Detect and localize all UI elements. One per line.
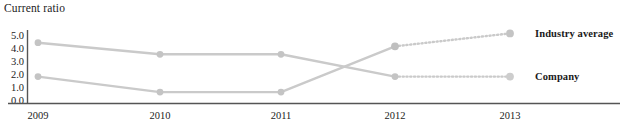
data-point-marker (278, 51, 285, 58)
x-tick-label-2009: 2009 (28, 110, 49, 121)
data-point-marker (157, 89, 164, 96)
x-tick-label-2011: 2011 (271, 110, 292, 121)
data-point-marker (35, 73, 42, 80)
data-point-marker (506, 73, 514, 81)
data-point-marker (392, 73, 399, 80)
x-tick-label-2012: 2012 (385, 110, 406, 121)
series-label-company: Company (535, 71, 579, 82)
chart-container: Current ratio 5.0 4.0 3.0 2.0 1.0 0.0 (0, 0, 629, 130)
x-tick-label-2013: 2013 (500, 110, 521, 121)
series-line-company-solid (38, 43, 395, 77)
data-point-marker (35, 39, 42, 46)
x-tick-label-2010: 2010 (150, 110, 171, 121)
plot-area (0, 0, 629, 130)
data-point-marker (157, 51, 164, 58)
data-point-marker (506, 30, 514, 38)
series-label-industry-average: Industry average (535, 28, 613, 39)
data-point-marker (278, 89, 285, 96)
series-line-industry-average-dotted (395, 33, 510, 46)
data-point-marker (391, 42, 399, 50)
